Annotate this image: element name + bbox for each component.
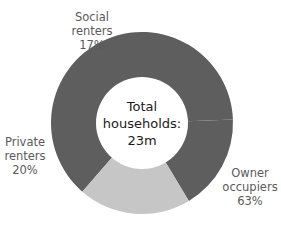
- label-private-pct: 20%: [2, 163, 48, 177]
- label-owner-line2: occupiers: [218, 180, 281, 194]
- label-private-line1: Private: [2, 135, 48, 149]
- label-social-pct: 17%: [60, 38, 124, 52]
- label-social-renters: Social renters 17%: [60, 10, 124, 52]
- center-total-label: Total households: 23m: [97, 98, 187, 149]
- label-owner-occupiers: Owner occupiers 63%: [218, 166, 281, 208]
- center-line1: Total: [97, 98, 187, 115]
- label-private-renters: Private renters 20%: [2, 135, 48, 177]
- center-line3: 23m: [97, 132, 187, 149]
- label-social-line1: Social: [60, 10, 124, 24]
- label-owner-pct: 63%: [218, 194, 281, 208]
- center-line2: households:: [97, 115, 187, 132]
- label-social-line2: renters: [60, 24, 124, 38]
- label-private-line2: renters: [2, 149, 48, 163]
- label-owner-line1: Owner: [218, 166, 281, 180]
